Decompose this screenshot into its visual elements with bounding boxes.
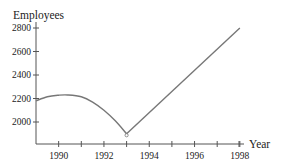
- y-tick-label: 2200: [12, 94, 31, 104]
- x-tick-label: 1998: [230, 151, 249, 161]
- series-employees: [36, 28, 240, 137]
- axes: [36, 22, 244, 144]
- y-tick-label: 2400: [12, 70, 31, 80]
- open-point-marker: [125, 134, 128, 137]
- x-axis-title: Year: [249, 138, 270, 150]
- series-line-segment: [36, 95, 127, 134]
- line-chart: 20002200240026002800 1990199219941996199…: [0, 0, 281, 168]
- y-tick-label: 2000: [12, 117, 31, 127]
- x-tick-label: 1992: [94, 151, 113, 161]
- series-line-segment: [127, 28, 240, 134]
- x-tick-label: 1994: [140, 151, 159, 161]
- x-tick-label: 1990: [49, 151, 68, 161]
- y-ticks: 20002200240026002800: [12, 23, 39, 127]
- y-tick-label: 2600: [12, 47, 31, 57]
- x-tick-label: 1996: [185, 151, 204, 161]
- y-axis-title: Employees: [13, 9, 65, 22]
- y-tick-label: 2800: [12, 23, 31, 33]
